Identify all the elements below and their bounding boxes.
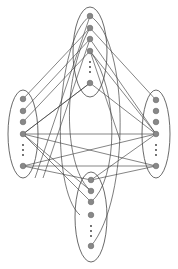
edges-layer bbox=[23, 16, 156, 202]
vertex-node bbox=[20, 131, 26, 137]
edge-line bbox=[43, 39, 90, 178]
edge-line bbox=[90, 51, 156, 134]
vertex-node bbox=[88, 177, 94, 183]
ellipsis-dot bbox=[155, 154, 157, 156]
edge-line bbox=[23, 51, 90, 122]
vertex-node bbox=[87, 36, 93, 42]
ellipsis-dot bbox=[90, 235, 92, 237]
vertex-node bbox=[88, 199, 94, 205]
ellipsis-dot bbox=[90, 225, 92, 227]
edge-line bbox=[23, 83, 90, 134]
edge-arc bbox=[90, 16, 120, 246]
vertex-node bbox=[20, 119, 26, 125]
edge-line bbox=[90, 83, 156, 134]
vertex-node bbox=[87, 13, 93, 19]
ellipsis-dot bbox=[89, 66, 91, 68]
vertex-node bbox=[153, 131, 159, 137]
ellipsis-dot bbox=[22, 154, 24, 156]
vertex-node bbox=[153, 108, 159, 114]
ellipsis-dot bbox=[22, 149, 24, 151]
vertex-node bbox=[87, 80, 93, 86]
vertex-node bbox=[153, 163, 159, 169]
vertex-node bbox=[20, 96, 26, 102]
vertex-node bbox=[88, 212, 94, 218]
cluster-bottom bbox=[75, 172, 107, 262]
vertex-node bbox=[88, 188, 94, 194]
ellipsis-dot bbox=[90, 230, 92, 232]
vertex-node bbox=[88, 243, 94, 249]
vertex-node bbox=[20, 163, 26, 169]
ellipsis-dot bbox=[155, 149, 157, 151]
vertex-node bbox=[153, 97, 159, 103]
ellipsis-dot bbox=[22, 144, 24, 146]
vertex-node bbox=[87, 25, 93, 31]
ellipsis-dot bbox=[89, 61, 91, 63]
graph-diagram bbox=[0, 0, 178, 269]
ellipsis-dot bbox=[155, 144, 157, 146]
edge-line bbox=[90, 39, 156, 134]
edge-line bbox=[35, 16, 90, 178]
vertex-node bbox=[87, 48, 93, 54]
vertex-node bbox=[153, 119, 159, 125]
vertex-node bbox=[20, 108, 26, 114]
ellipsis-dot bbox=[89, 71, 91, 73]
clusters-layer bbox=[8, 7, 170, 262]
